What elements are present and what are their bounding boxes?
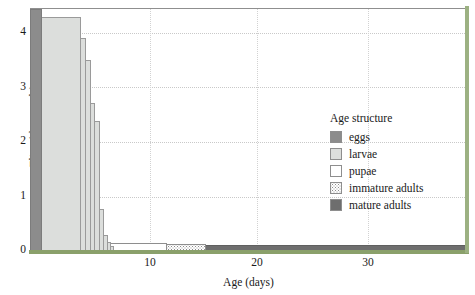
gridline-y-4 — [30, 33, 467, 34]
y-axis-ticks: 4 3 2 1 0 — [0, 0, 26, 295]
series-eggs — [30, 9, 42, 252]
y-tick-0: 0 — [4, 244, 26, 256]
legend-swatch-eggs — [330, 131, 342, 143]
gridline-x-20 — [257, 9, 258, 252]
legend-swatch-mature-adults — [330, 199, 342, 211]
x-axis-ticks: 10 20 30 — [30, 256, 467, 274]
legend-label-eggs: eggs — [349, 131, 370, 143]
legend-item-pupae: pupae — [330, 163, 460, 179]
legend-title: Age structure — [330, 112, 460, 124]
gridline-x-10 — [150, 9, 151, 252]
legend-label-mature-adults: mature adults — [349, 199, 411, 211]
y-tick-3: 3 — [4, 81, 26, 93]
x-axis-line — [29, 250, 469, 254]
legend-item-eggs: eggs — [330, 129, 460, 145]
legend-swatch-pupae — [330, 165, 342, 177]
gridline-y-3 — [30, 87, 467, 88]
x-axis-title: Age (days) — [30, 276, 467, 288]
x-tick-30: 30 — [348, 256, 388, 268]
legend-label-immature-adults: immature adults — [349, 182, 423, 194]
y-tick-4: 4 — [4, 26, 26, 38]
y-tick-2: 2 — [4, 135, 26, 147]
legend-label-larvae: larvae — [349, 148, 377, 160]
x-tick-20: 20 — [237, 256, 277, 268]
legend-label-pupae: pupae — [349, 165, 376, 177]
right-axis-line — [465, 6, 469, 253]
series-larvae-step-1 — [41, 17, 81, 252]
legend: Age structure eggs larvae pupae immature… — [330, 112, 460, 214]
y-tick-1: 1 — [4, 190, 26, 202]
x-tick-10: 10 — [130, 256, 170, 268]
legend-item-larvae: larvae — [330, 146, 460, 162]
legend-swatch-larvae — [330, 148, 342, 160]
legend-item-mature-adults: mature adults — [330, 197, 460, 213]
legend-item-immature-adults: immature adults — [330, 180, 460, 196]
figure: Flies (thousands) 4 3 2 1 0 — [0, 0, 475, 295]
legend-swatch-immature-adults — [330, 182, 342, 194]
